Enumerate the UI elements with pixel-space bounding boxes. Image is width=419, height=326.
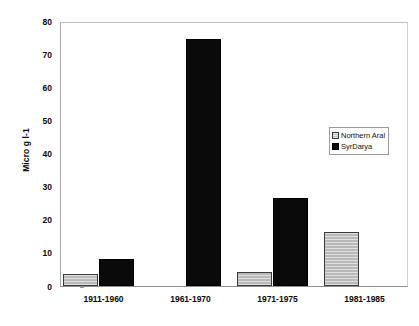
bar-group-1911-1960 bbox=[63, 23, 134, 286]
legend-label-northern-aral: Northern Aral bbox=[341, 132, 385, 140]
bar-syrdarya-1971-1975 bbox=[273, 198, 308, 286]
bar-northern-aral-1981-1985 bbox=[324, 232, 359, 286]
bar-syrdarya-1911-1960 bbox=[99, 259, 134, 286]
bar-group-1971-1975 bbox=[237, 23, 308, 286]
bar-group-1961-1970 bbox=[150, 23, 221, 286]
y-tick-50: 50 bbox=[24, 117, 52, 126]
x-tick-1981-1985: 1981-1985 bbox=[325, 294, 405, 304]
y-tick-70: 70 bbox=[24, 51, 52, 60]
x-axis-tick-labels: 1911-19601961-19701971-19751981-1985 bbox=[60, 294, 408, 310]
y-axis-tick-labels: 01020304050607080 bbox=[24, 0, 52, 326]
legend: Northern Aral SyrDarya bbox=[329, 127, 389, 155]
bar-northern-aral-1971-1975 bbox=[237, 272, 272, 286]
y-tick-0: 0 bbox=[24, 283, 52, 292]
solid-black-swatch-icon bbox=[332, 143, 339, 150]
plot-area: Northern Aral SyrDarya bbox=[60, 22, 408, 287]
legend-label-syrdarya: SyrDarya bbox=[341, 143, 372, 151]
y-tick-10: 10 bbox=[24, 249, 52, 258]
x-tick-1971-1975: 1971-1975 bbox=[238, 294, 318, 304]
y-tickmark-0 bbox=[80, 287, 84, 288]
y-tick-30: 30 bbox=[24, 183, 52, 192]
x-tick-1911-1960: 1911-1960 bbox=[64, 294, 144, 304]
bar-syrdarya-1961-1970 bbox=[186, 39, 221, 286]
x-tick-1961-1970: 1961-1970 bbox=[151, 294, 231, 304]
legend-item-syrdarya: SyrDarya bbox=[332, 141, 385, 152]
bar-chart-figure: Micro g l-1 01020304050607080 Northern A… bbox=[0, 0, 419, 326]
y-tick-60: 60 bbox=[24, 84, 52, 93]
y-tick-20: 20 bbox=[24, 216, 52, 225]
bar-northern-aral-1911-1960 bbox=[63, 274, 98, 286]
y-tick-40: 40 bbox=[24, 150, 52, 159]
hatched-gray-swatch-icon bbox=[332, 132, 339, 139]
y-tick-80: 80 bbox=[24, 18, 52, 27]
legend-item-northern-aral: Northern Aral bbox=[332, 130, 385, 141]
